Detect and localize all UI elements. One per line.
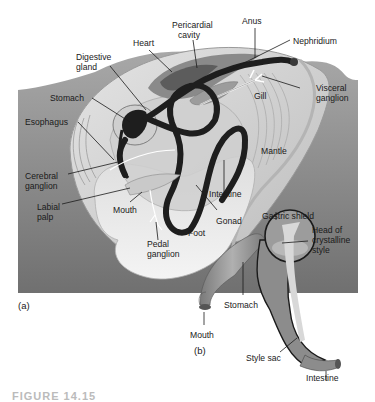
label-head-of-style-line3: style [312,245,330,255]
label-stomach-b: Stomach [224,300,258,310]
panel-tag-a: (a) [18,300,30,311]
label-gastric-shield: Gastric shield [262,211,314,221]
label-pericardial-cavity-line1: Pericardial [172,20,213,30]
label-intestine: Intestine [209,189,242,199]
label-digestive-gland-line1: Digestive [76,52,111,62]
label-style-sac: Style sac [246,353,281,363]
label-gill: Gill [254,91,266,101]
label-pericardial-cavity-line2: cavity [178,30,200,40]
label-gonad: Gonad [216,216,242,226]
figure-caption-clipped: FIGURE 14.15 [12,390,96,402]
label-nephridium: Nephridium [293,36,337,46]
label-visceral-ganglion-line2: ganglion [316,93,349,103]
label-stomach: Stomach [50,93,84,103]
label-mouth: Mouth [113,205,137,215]
label-pedal-ganglion-line1: Pedal [147,239,169,249]
label-pedal-ganglion-line2: ganglion [147,249,180,259]
label-head-of-style-line2: crystalline [312,235,350,245]
label-head-of-style-line1: Head of [312,225,342,235]
panel-tag-b: (b) [194,345,206,356]
label-labial-palp-line1: Labial [37,202,60,212]
label-labial-palp-line2: palp [37,212,53,222]
label-intestine-b: Intestine [306,373,339,383]
label-foot: Foot [188,228,205,238]
label-heart: Heart [133,38,154,48]
label-cerebral-ganglion-line2: ganglion [25,181,58,191]
label-digestive-gland-line2: gland [76,62,97,72]
label-cerebral-ganglion-line1: Cerebral [25,171,58,181]
label-anus: Anus [242,16,262,26]
label-mouth-b: Mouth [190,330,214,340]
label-mantle: Mantle [261,146,287,156]
label-visceral-ganglion-line1: Visceral [316,83,346,93]
label-esophagus: Esophagus [25,117,68,127]
anus-opening [290,58,298,66]
